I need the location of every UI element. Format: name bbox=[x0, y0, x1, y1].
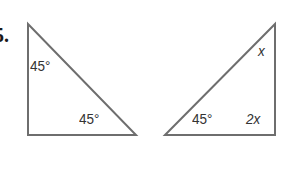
right-triangle-bottom-right-angle-label: 2x bbox=[246, 110, 260, 127]
left-triangle-top-angle-label: 45° bbox=[30, 57, 50, 74]
right-triangle-bottom-left-angle-label: 45° bbox=[192, 110, 212, 127]
right-triangle-top-angle-label: x bbox=[258, 42, 265, 59]
triangles-figure bbox=[0, 0, 285, 180]
left-triangle-bottom-angle-label: 45° bbox=[79, 110, 99, 127]
